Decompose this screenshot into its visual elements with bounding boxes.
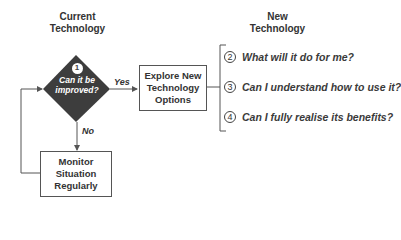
- explore-line2: Technology: [144, 82, 201, 94]
- step-number-4-icon: 4: [224, 111, 236, 123]
- monitor-line1: Monitor: [54, 156, 97, 168]
- yes-label: Yes: [114, 77, 130, 87]
- explore-line3: Options: [144, 94, 201, 106]
- explore-line1: Explore New: [144, 70, 201, 82]
- question-3: 3 Can I understand how to use it?: [224, 81, 401, 93]
- question-3-text: Can I understand how to use it?: [242, 81, 401, 93]
- step-number-1-icon: 1: [72, 63, 83, 74]
- step-number-2-icon: 2: [224, 51, 236, 63]
- explore-options-box: Explore New Technology Options: [139, 65, 207, 111]
- question-4-text: Can I fully realise its benefits?: [242, 111, 393, 123]
- step-number-3-icon: 3: [224, 81, 236, 93]
- decision-line1: Can it be: [48, 75, 106, 85]
- no-label: No: [82, 126, 94, 136]
- monitor-line2: Situation: [54, 168, 97, 180]
- decision-line2: improved?: [48, 85, 106, 95]
- question-2-text: What will it do for me?: [242, 51, 354, 63]
- question-2: 2 What will it do for me?: [224, 51, 354, 63]
- monitor-situation-box: Monitor Situation Regularly: [40, 151, 112, 197]
- decision-label: 1 Can it be improved?: [48, 62, 106, 95]
- question-4: 4 Can I fully realise its benefits?: [224, 111, 393, 123]
- monitor-line3: Regularly: [54, 180, 97, 192]
